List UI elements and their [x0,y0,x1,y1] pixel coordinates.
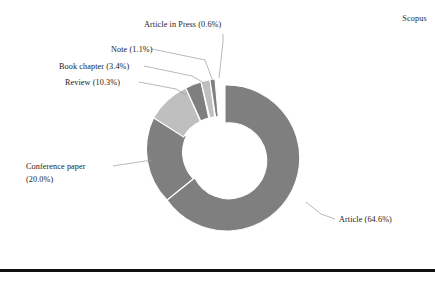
label-note: Note (1.1%) [111,45,153,54]
leader-lines [113,34,335,219]
leader-article-in-press [219,34,223,78]
label-conference-paper-line2: (20.0%) [26,175,53,184]
leader-conference-paper [113,160,152,166]
leader-article [306,202,335,219]
label-review: Review (10.3%) [65,78,120,87]
donut-segments [146,79,299,231]
label-conference-paper-line1: Conference paper [26,162,86,171]
bottom-rule [0,269,435,272]
donut-chart: Article in Press (0.6%) Note (1.1%) Book… [0,0,435,284]
leader-note [152,49,212,80]
label-article-in-press: Article in Press (0.6%) [144,20,222,29]
leader-book-chapter [144,66,204,83]
label-book-chapter: Book chapter (3.4%) [59,62,130,71]
label-article: Article (64.6%) [339,215,392,224]
figure-canvas: Article in Press (0.6%) Note (1.1%) Book… [0,0,435,284]
source-title: Scopus [402,14,427,23]
